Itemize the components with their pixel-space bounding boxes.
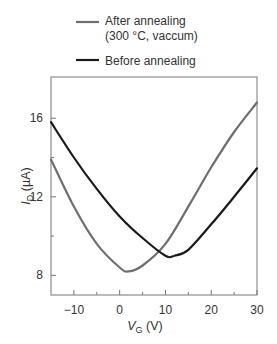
x-tick-label: 10 xyxy=(159,303,173,317)
x-axis-title: VG (V) xyxy=(127,319,163,335)
y-tick-label: 16 xyxy=(30,111,44,125)
legend-label-before: Before annealing xyxy=(105,54,196,68)
legend: After annealing (300 °C, vaccum) Before … xyxy=(76,14,198,68)
x-tick-label: 30 xyxy=(250,303,264,317)
x-tick-label: −10 xyxy=(64,303,85,317)
x-tick-label: 20 xyxy=(205,303,219,317)
x-tick-label: 0 xyxy=(116,303,123,317)
chart: After annealing (300 °C, vaccum) Before … xyxy=(0,0,277,344)
legend-label-after-2: (300 °C, vaccum) xyxy=(105,29,198,43)
legend-label-after-1: After annealing xyxy=(105,14,186,28)
data-series xyxy=(51,103,257,272)
plot-frame xyxy=(51,77,257,295)
y-axis-title: ID (µA) xyxy=(19,167,35,204)
svg-text:ID (µA): ID (µA) xyxy=(19,167,35,204)
y-tick-label: 8 xyxy=(36,268,43,282)
